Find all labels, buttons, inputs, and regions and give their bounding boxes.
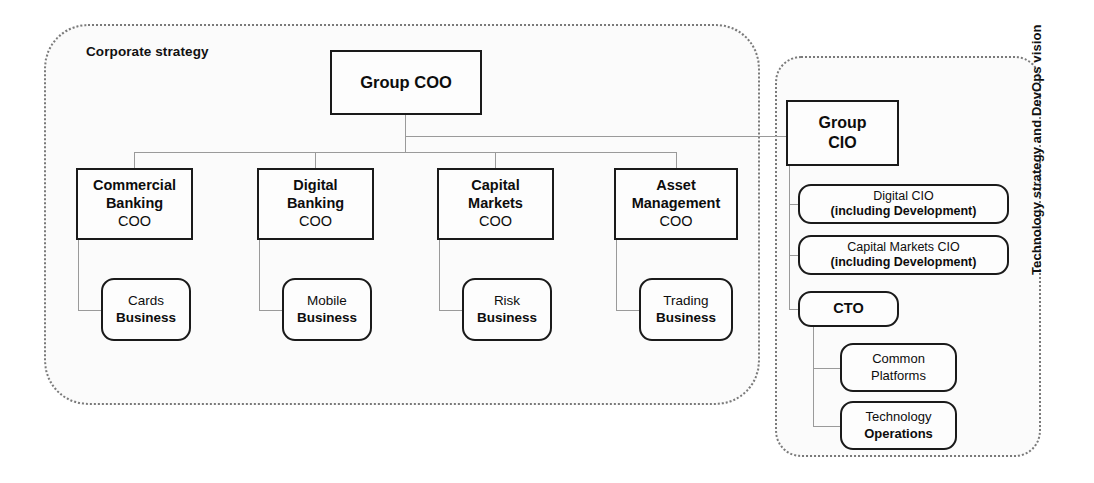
node-technology-operations-line1: Technology — [866, 409, 932, 425]
org-chart-diagram: Corporate strategy Technology strategy a… — [0, 0, 1094, 483]
node-capital-markets-cio-line1: Capital Markets CIO — [847, 240, 960, 256]
connector-group-coo-drop — [405, 115, 406, 152]
node-group-cio-line2: CIO — [828, 133, 856, 153]
node-capital-markets-cio[interactable]: Capital Markets CIO (including Developme… — [798, 235, 1009, 275]
connector-asset-to-trading-v — [616, 240, 617, 310]
corporate-strategy-label: Corporate strategy — [86, 44, 209, 59]
node-digital-cio[interactable]: Digital CIO (including Development) — [798, 184, 1009, 224]
node-group-coo-line1: Group COO — [360, 72, 452, 92]
node-risk-business-line1: Risk — [494, 293, 520, 310]
node-group-coo[interactable]: Group COO — [330, 50, 482, 115]
connector-capital-to-risk-h — [439, 310, 463, 311]
node-cards-business-line1: Cards — [128, 293, 164, 310]
connector-drop-digital — [315, 152, 316, 168]
connector-asset-to-trading-h — [616, 310, 640, 311]
node-group-cio-line1: Group — [819, 113, 867, 133]
node-mobile-business-line2: Business — [297, 310, 357, 327]
node-technology-operations-line2: Operations — [864, 426, 933, 442]
node-asset-management-coo-line3: COO — [659, 213, 692, 231]
node-asset-management-coo-line1: Asset — [656, 177, 696, 195]
connector-cto-spine — [813, 327, 814, 426]
node-asset-management-coo[interactable]: Asset Management COO — [614, 168, 738, 240]
node-commercial-banking-coo[interactable]: Commercial Banking COO — [76, 168, 193, 240]
node-digital-banking-coo-line3: COO — [299, 213, 332, 231]
node-commercial-banking-coo-line2: Banking — [106, 195, 163, 213]
node-trading-business[interactable]: Trading Business — [639, 278, 733, 341]
connector-commercial-to-cards-v — [78, 240, 79, 310]
node-technology-operations[interactable]: Technology Operations — [840, 401, 957, 450]
connector-cto-to-tech-operations — [813, 426, 841, 427]
node-risk-business[interactable]: Risk Business — [462, 278, 552, 341]
node-digital-cio-line2: (including Development) — [831, 204, 977, 220]
node-cards-business-line2: Business — [116, 310, 176, 327]
node-trading-business-line1: Trading — [663, 293, 708, 310]
node-digital-banking-coo-line1: Digital — [293, 177, 337, 195]
connector-coo-bus — [134, 152, 676, 153]
node-asset-management-coo-line2: Management — [632, 195, 721, 213]
node-capital-markets-cio-line2: (including Development) — [831, 255, 977, 271]
node-cto[interactable]: CTO — [798, 291, 899, 327]
connector-cio-spine — [789, 166, 790, 310]
node-mobile-business-line1: Mobile — [307, 293, 347, 310]
node-cto-line1: CTO — [833, 300, 863, 318]
node-mobile-business[interactable]: Mobile Business — [282, 278, 372, 341]
node-capital-markets-coo-line3: COO — [479, 213, 512, 231]
connector-drop-asset — [676, 152, 677, 168]
connector-commercial-to-cards-h — [78, 310, 102, 311]
node-digital-banking-coo[interactable]: Digital Banking COO — [257, 168, 374, 240]
connector-capital-to-risk-v — [439, 240, 440, 310]
technology-strategy-label: Technology strategy and DevOps vision — [1029, 24, 1044, 275]
node-trading-business-line2: Business — [656, 310, 716, 327]
connector-cto-to-common-platforms — [813, 368, 841, 369]
node-capital-markets-coo-line1: Capital — [471, 177, 519, 195]
node-digital-cio-line1: Digital CIO — [873, 189, 933, 205]
node-digital-banking-coo-line2: Banking — [287, 195, 344, 213]
node-capital-markets-coo-line2: Markets — [468, 195, 523, 213]
connector-coo-to-cio — [405, 136, 786, 137]
connector-digital-to-mobile-v — [259, 240, 260, 310]
node-common-platforms[interactable]: Common Platforms — [840, 343, 957, 392]
node-common-platforms-line2: Platforms — [871, 368, 926, 384]
node-common-platforms-line1: Common — [872, 351, 925, 367]
node-cards-business[interactable]: Cards Business — [101, 278, 191, 341]
node-commercial-banking-coo-line3: COO — [118, 213, 151, 231]
connector-digital-to-mobile-h — [259, 310, 283, 311]
connector-drop-commercial — [134, 152, 135, 168]
node-capital-markets-coo[interactable]: Capital Markets COO — [437, 168, 554, 240]
node-commercial-banking-coo-line1: Commercial — [93, 177, 176, 195]
node-group-cio[interactable]: Group CIO — [786, 100, 899, 166]
connector-drop-capital — [495, 152, 496, 168]
node-risk-business-line2: Business — [477, 310, 537, 327]
